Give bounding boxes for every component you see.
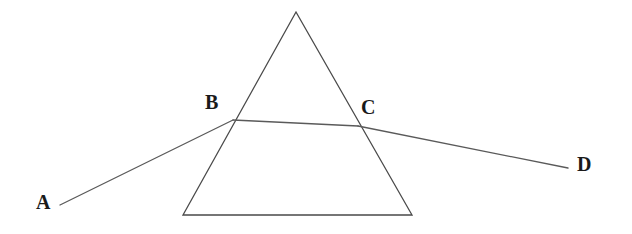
diagram-canvas	[0, 0, 632, 234]
point-label-d: D	[577, 154, 592, 174]
internal-ray-bc	[233, 120, 358, 126]
point-label-b: B	[205, 92, 219, 112]
prism-refraction-diagram: A B C D	[0, 0, 632, 234]
prism-triangle	[183, 12, 412, 215]
point-label-c: C	[361, 97, 376, 117]
point-label-a: A	[36, 192, 51, 212]
incident-ray-ab	[60, 120, 233, 205]
emergent-ray-cd	[358, 126, 568, 168]
